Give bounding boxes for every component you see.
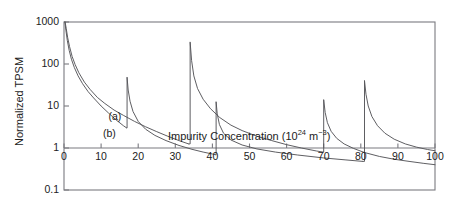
resonance-riser-a-1: [189, 42, 190, 144]
x-axis-title-exponent-24: 24: [298, 128, 306, 137]
x-tick-label: 80: [355, 151, 367, 162]
curve-label-b: (b): [103, 128, 116, 139]
x-tick-label: 90: [392, 151, 404, 162]
y-axis-title: Normalized TPSM: [14, 57, 25, 146]
x-tick-label: 50: [244, 151, 256, 162]
x-tick-label: 20: [132, 151, 144, 162]
plot-border: [64, 22, 435, 190]
x-tick-label: 60: [281, 151, 293, 162]
y-tick-label: 0.1: [44, 184, 59, 195]
x-tick-label: 40: [207, 151, 219, 162]
x-axis-title: Impurity Concentration (1024 m−3): [168, 131, 330, 142]
x-axis-title-exponent-minus3: −3: [318, 128, 327, 137]
curve-b-segment-3: [365, 81, 435, 151]
y-tick-label: 1: [53, 142, 59, 153]
curve-a-segment-2: [324, 100, 435, 165]
axis-ticks: [64, 22, 435, 190]
x-tick-label: 10: [95, 151, 107, 162]
x-axis-title-main: Impurity Concentration (10: [168, 130, 298, 142]
resonance-riser-a-2: [323, 100, 324, 152]
x-tick-label: 0: [61, 151, 67, 162]
x-tick-label: 30: [169, 151, 181, 162]
curve-b-segment-1: [127, 77, 216, 154]
figure-container: Normalized TPSM Impurity Concentration (…: [0, 0, 458, 208]
x-tick-label: 70: [318, 151, 330, 162]
y-tick-label: 1000: [36, 16, 59, 27]
x-axis-title-end: ): [327, 130, 331, 142]
x-axis-title-middle: m: [306, 130, 318, 142]
x-tick-label: 100: [426, 151, 444, 162]
y-tick-label: 10: [47, 100, 59, 111]
chart-plot-area: [0, 0, 458, 208]
plot-frame: [64, 22, 435, 190]
data-curves: [65, 22, 435, 165]
y-tick-label: 100: [41, 58, 59, 69]
curve-label-a: (a): [109, 111, 122, 122]
